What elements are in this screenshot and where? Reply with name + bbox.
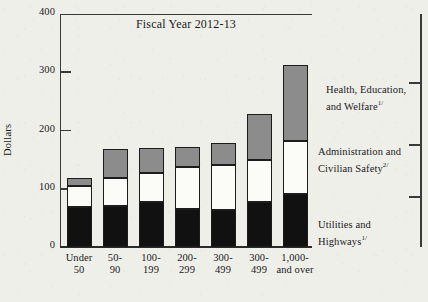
footnote-marker: 1/	[378, 99, 384, 107]
right-tick-3	[409, 196, 420, 198]
bar-segment-1[interactable]	[211, 210, 236, 247]
y-tick-label: 300	[24, 64, 55, 75]
bar-1[interactable]	[67, 178, 92, 247]
legend-label-3: Utilities andHighways1/	[318, 219, 371, 248]
y-tick-label: 0	[24, 239, 55, 250]
legend-label-1: Health, Education,and Welfare1/	[326, 84, 406, 113]
bar-segment-1[interactable]	[139, 202, 164, 247]
bar-segment-3[interactable]	[247, 114, 272, 161]
footnote-marker: 1/	[361, 234, 367, 242]
right-tick-2	[409, 144, 420, 146]
bar-group	[60, 14, 312, 247]
bar-6[interactable]	[247, 114, 272, 247]
bar-5[interactable]	[211, 143, 236, 247]
bar-segment-3[interactable]	[139, 148, 164, 173]
legend-label-line1: Utilities and	[318, 219, 371, 232]
bar-segment-3[interactable]	[283, 65, 308, 141]
bar-4[interactable]	[175, 147, 200, 247]
bar-segment-1[interactable]	[247, 202, 272, 247]
bar-segment-1[interactable]	[103, 206, 128, 247]
right-tick-1	[409, 82, 420, 84]
bar-segment-2[interactable]	[283, 141, 308, 194]
bar-segment-2[interactable]	[175, 167, 200, 209]
right-axis-line	[420, 14, 422, 247]
y-tick-label: 400	[24, 6, 55, 17]
bar-segment-3[interactable]	[103, 149, 128, 179]
bar-segment-2[interactable]	[67, 186, 92, 208]
legend-label-line2: Highways1/	[318, 232, 371, 248]
x-tick-label-line: 1,000-	[271, 252, 319, 264]
y-tick-label: 100	[24, 181, 55, 192]
stacked-bar-chart: Dollars 0100200300400 Fiscal Year 2012-1…	[0, 0, 428, 302]
legend-label-2: Administration andCivilian Safety2/	[318, 146, 401, 175]
legend-label-line1: Health, Education,	[326, 84, 406, 97]
bar-segment-1[interactable]	[283, 194, 308, 247]
bar-segment-3[interactable]	[175, 147, 200, 167]
bar-segment-1[interactable]	[67, 207, 92, 247]
bar-segment-3[interactable]	[211, 143, 236, 165]
footnote-marker: 2/	[383, 161, 389, 169]
bar-segment-2[interactable]	[247, 160, 272, 201]
bar-segment-2[interactable]	[139, 173, 164, 202]
y-tick-label: 200	[24, 123, 55, 134]
legend-label-line1: Administration and	[318, 146, 401, 159]
bar-2[interactable]	[103, 149, 128, 247]
bar-segment-2[interactable]	[103, 178, 128, 206]
x-tick-label-7: 1,000-and over	[271, 252, 319, 275]
bar-3[interactable]	[139, 148, 164, 247]
bar-7[interactable]	[283, 65, 308, 247]
legend-label-line2: Civilian Safety2/	[318, 159, 401, 175]
bar-segment-1[interactable]	[175, 209, 200, 247]
bar-segment-2[interactable]	[211, 165, 236, 210]
legend-label-line2: and Welfare1/	[326, 97, 406, 113]
bar-segment-3[interactable]	[67, 178, 92, 186]
y-axis-label: Dollars	[2, 105, 16, 175]
x-tick-label-line: and over	[271, 264, 319, 276]
